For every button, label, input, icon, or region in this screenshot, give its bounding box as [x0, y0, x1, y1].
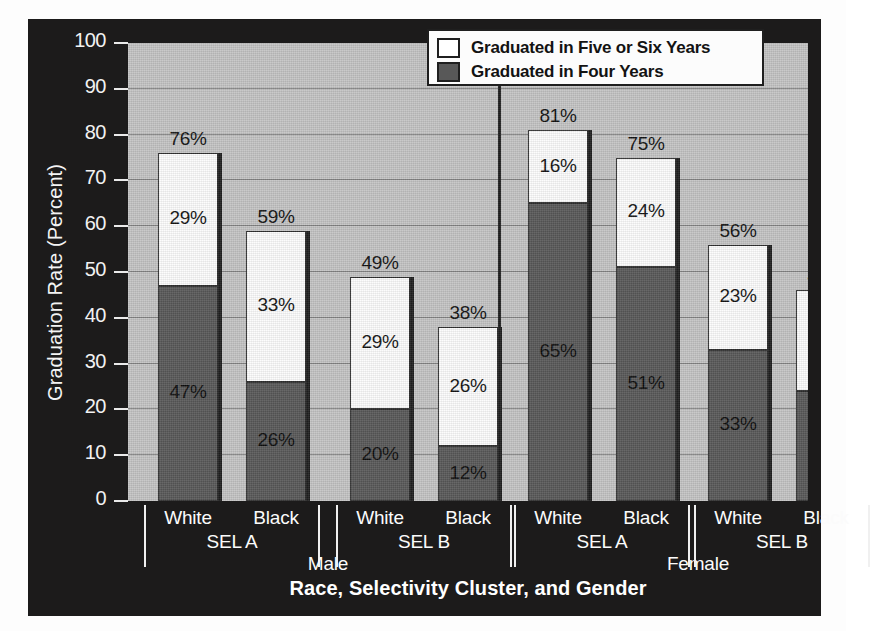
x-axis-groups: WhiteBlackSEL AMaleWhiteBlackSEL BWhiteB… [128, 503, 808, 575]
bar-female-sel-b-white [708, 245, 768, 501]
y-tick-mark [114, 134, 128, 136]
race-label-white: White [694, 507, 782, 529]
value-label-four-years: 33% [708, 413, 768, 435]
y-tick-mark [114, 88, 128, 90]
x-group-female-sel-a: WhiteBlackSEL AFemale [514, 503, 690, 569]
total-label: 56% [708, 220, 768, 242]
plot-area: 47%29%76%26%33%59%20%29%49%12%26%38%65%1… [128, 43, 808, 501]
bar-male-sel-b-white [350, 277, 410, 501]
race-label-black: Black [602, 507, 690, 529]
y-axis-title: Graduation Rate (Percent) [44, 73, 67, 493]
value-label-five-or-six-years: 22% [796, 329, 808, 351]
bar-edge-shadow [218, 153, 222, 501]
x-group-male-sel-a: WhiteBlackSEL AMale [144, 503, 320, 569]
bar-female-sel-b-black [796, 290, 808, 501]
y-tick-mark [114, 271, 128, 273]
race-label-black: Black [782, 507, 870, 529]
race-label-black: Black [232, 507, 320, 529]
chart-frame: 0102030405060708090100 Graduation Rate (… [28, 19, 821, 616]
race-label-row: WhiteBlack [514, 507, 690, 531]
bar-male-sel-a-black [246, 231, 306, 501]
x-axis-title: Race, Selectivity Cluster, and Gender [128, 577, 808, 600]
value-label-five-or-six-years: 16% [528, 155, 588, 177]
selectivity-label: SEL B [694, 531, 870, 553]
bar-edge-shadow [498, 327, 502, 501]
y-tick-label: 100 [54, 29, 106, 52]
race-label-white: White [514, 507, 602, 529]
bar-edge-shadow [768, 245, 772, 501]
value-label-four-years: 24% [796, 434, 808, 456]
y-tick-mark [114, 317, 128, 319]
value-label-five-or-six-years: 29% [350, 331, 410, 353]
gridline [128, 88, 808, 89]
bar-female-sel-a-white [528, 130, 588, 501]
value-label-five-or-six-years: 26% [438, 375, 498, 397]
selectivity-label: SEL A [514, 531, 690, 553]
x-group-female-sel-b: WhiteBlackSEL B [694, 503, 870, 569]
total-label: 75% [616, 133, 676, 155]
race-label-white: White [144, 507, 232, 529]
gridline [128, 225, 808, 226]
race-label-black: Black [424, 507, 512, 529]
y-tick-mark [114, 454, 128, 456]
race-label-row: WhiteBlack [144, 507, 320, 531]
total-label: 38% [438, 302, 498, 324]
race-label-row: WhiteBlack [336, 507, 512, 531]
total-label: 81% [528, 105, 588, 127]
legend-item-five-or-six-years: Graduated in Five or Six Years [437, 36, 754, 60]
value-label-four-years: 12% [438, 462, 498, 484]
legend-label-four-years: Graduated in Four Years [471, 62, 664, 82]
gridline [128, 134, 808, 135]
x-group-male-sel-b: WhiteBlackSEL B [336, 503, 512, 569]
legend-label-five-or-six-years: Graduated in Five or Six Years [471, 38, 710, 58]
value-label-five-or-six-years: 29% [158, 207, 218, 229]
race-label-white: White [336, 507, 424, 529]
gridline [128, 271, 808, 272]
y-tick-mark [114, 225, 128, 227]
legend-swatch-four-years [437, 62, 460, 82]
bar-male-sel-a-white [158, 153, 218, 501]
y-tick-mark [114, 363, 128, 365]
bar-edge-shadow [588, 130, 592, 501]
total-label: 76% [158, 128, 218, 150]
selectivity-label: SEL A [144, 531, 320, 553]
value-label-four-years: 20% [350, 443, 410, 465]
selectivity-label: SEL B [336, 531, 512, 553]
y-tick-mark [114, 42, 128, 44]
total-label: 59% [246, 206, 306, 228]
value-label-five-or-six-years: 23% [708, 285, 768, 307]
legend: Graduated in Five or Six Years Graduated… [427, 29, 764, 86]
bar-edge-shadow [410, 277, 414, 501]
legend-item-four-years: Graduated in Four Years [437, 60, 754, 84]
race-label-row: WhiteBlack [694, 507, 870, 531]
y-tick-mark [114, 179, 128, 181]
y-tick-mark [114, 500, 128, 502]
bar-edge-shadow [676, 158, 680, 502]
value-label-four-years: 26% [246, 429, 306, 451]
total-label: 46% [796, 265, 808, 287]
legend-swatch-five-or-six-years [437, 38, 460, 58]
value-label-five-or-six-years: 24% [616, 200, 676, 222]
value-label-four-years: 51% [616, 372, 676, 394]
value-label-four-years: 47% [158, 381, 218, 403]
value-label-five-or-six-years: 33% [246, 294, 306, 316]
gridline [128, 179, 808, 180]
y-tick-mark [114, 408, 128, 410]
value-label-four-years: 65% [528, 340, 588, 362]
total-label: 49% [350, 252, 410, 274]
bar-edge-shadow [306, 231, 310, 501]
